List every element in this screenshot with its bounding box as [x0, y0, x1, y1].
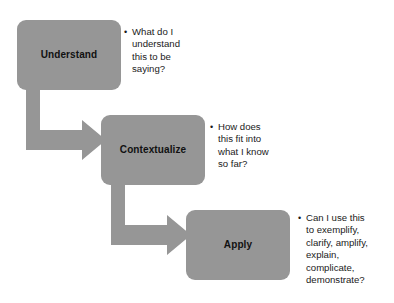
note-line: clarify, amplify, — [306, 237, 368, 248]
connector-contextualize-to-apply — [105, 177, 197, 255]
note-contextualize: How does this fit into what I know so fa… — [210, 121, 288, 171]
note-line: explain, — [306, 249, 339, 260]
note-line: Can I use this — [306, 212, 365, 223]
process-box-understand-label: Understand — [41, 50, 98, 60]
note-line: this to be — [132, 51, 171, 62]
process-box-apply[interactable]: Apply — [186, 210, 290, 280]
process-box-apply-label: Apply — [224, 240, 252, 250]
connector-understand-to-contextualize — [20, 82, 112, 160]
note-line: this fit into — [218, 133, 261, 144]
list-item: How does this fit into what I know so fa… — [210, 121, 288, 171]
note-line: complicate, — [306, 262, 355, 273]
note-line: saying? — [132, 63, 165, 74]
note-line: so far? — [218, 158, 247, 169]
process-box-contextualize-label: Contextualize — [120, 145, 186, 155]
note-apply: Can I use this to exemplify, clarify, am… — [298, 212, 390, 286]
note-line: demonstrate? — [306, 274, 365, 285]
list-item: What do I understand this to be saying? — [124, 26, 198, 76]
process-box-contextualize[interactable]: Contextualize — [101, 115, 205, 185]
note-contextualize-list: How does this fit into what I know so fa… — [210, 121, 288, 171]
diagram-canvas: Understand What do I understand this to … — [0, 0, 394, 303]
note-line: what I know — [218, 146, 269, 157]
process-box-understand[interactable]: Understand — [17, 20, 121, 90]
note-line: What do I — [132, 26, 173, 37]
note-line: How does — [218, 121, 261, 132]
note-line: understand — [132, 38, 180, 49]
list-item: Can I use this to exemplify, clarify, am… — [298, 212, 390, 286]
note-understand: What do I understand this to be saying? — [124, 26, 198, 76]
note-apply-list: Can I use this to exemplify, clarify, am… — [298, 212, 390, 286]
note-line: to exemplify, — [306, 224, 359, 235]
note-understand-list: What do I understand this to be saying? — [124, 26, 198, 76]
